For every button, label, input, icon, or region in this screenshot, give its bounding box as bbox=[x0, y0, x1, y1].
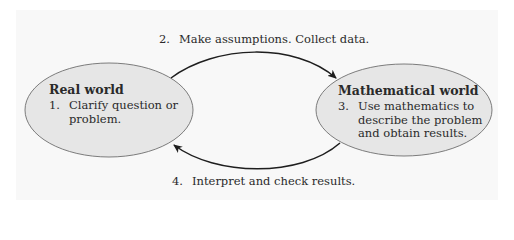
step-text-line: problem. bbox=[69, 113, 121, 127]
arrow-math-to-real bbox=[174, 143, 340, 169]
step-text-line: Use mathematics to bbox=[358, 100, 474, 114]
step-text-line: Clarify question or bbox=[69, 99, 178, 113]
step-number: 1. bbox=[49, 99, 60, 113]
mathematical-world-title: Mathematical world bbox=[338, 83, 479, 98]
step-text-line: and obtain results. bbox=[358, 127, 467, 141]
step-text-line: describe the problem bbox=[358, 114, 483, 128]
step-number: 3. bbox=[338, 100, 349, 114]
edge-label-assumptions: 2.Make assumptions. Collect data. bbox=[159, 32, 369, 46]
edge-label-text: Make assumptions. Collect data. bbox=[179, 32, 369, 46]
edge-label-text: Interpret and check results. bbox=[192, 174, 355, 188]
mathematical-world-step: 3. Use mathematics to describe the probl… bbox=[338, 100, 488, 142]
step-number: 4. bbox=[172, 174, 192, 188]
real-world-step: 1. Clarify question or problem. bbox=[49, 99, 189, 129]
step-number: 2. bbox=[159, 32, 179, 46]
edge-label-interpret: 4.Interpret and check results. bbox=[172, 174, 355, 188]
real-world-title: Real world bbox=[49, 82, 124, 97]
arrow-real-to-math bbox=[171, 52, 336, 78]
